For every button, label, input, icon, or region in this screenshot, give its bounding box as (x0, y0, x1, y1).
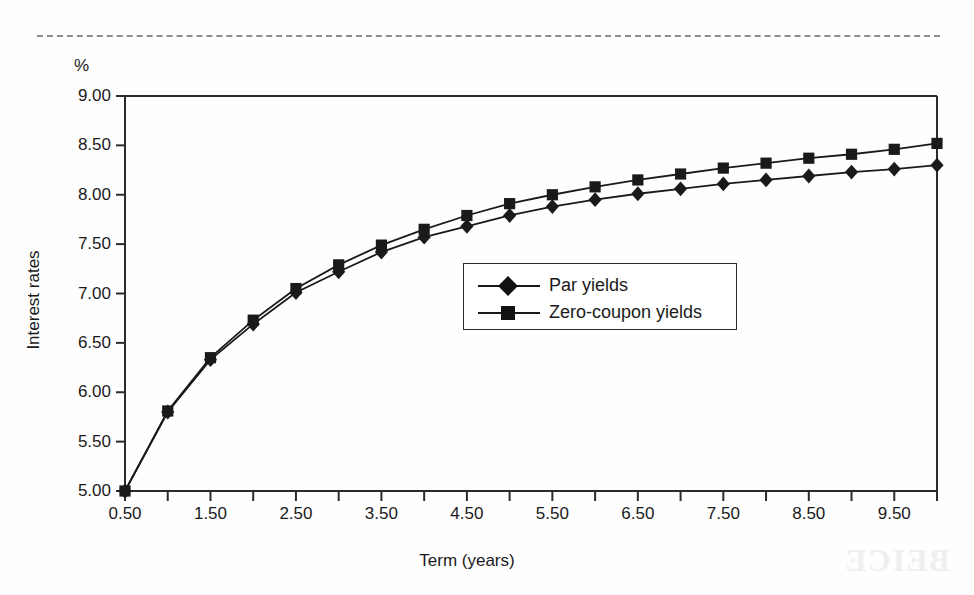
square-data-point (632, 174, 643, 185)
square-data-point (119, 485, 130, 496)
square-data-point (803, 153, 814, 164)
square-data-point (162, 405, 173, 416)
diamond-data-point (930, 158, 943, 173)
square-data-point (718, 162, 729, 173)
square-data-point (675, 168, 686, 179)
diamond-data-point (546, 199, 559, 214)
diamond-data-point (717, 176, 730, 191)
legend-label-par-yields: Par yields (540, 275, 628, 296)
square-data-point (205, 352, 216, 363)
diamond-data-point (631, 186, 644, 201)
diamond-data-point (674, 181, 687, 196)
chart-legend: Par yields Zero-coupon yields (463, 263, 737, 330)
diamond-data-point (460, 219, 473, 234)
square-data-point (290, 283, 301, 294)
yield-curve-chart: % Interest rates Term (years) 5.005.506.… (0, 0, 974, 595)
diamond-data-point (503, 208, 516, 223)
square-data-point (504, 198, 515, 209)
legend-label-zero-coupon-yields: Zero-coupon yields (540, 302, 702, 323)
square-data-point (760, 158, 771, 169)
diamond-data-point (759, 173, 772, 188)
diamond-marker-icon (478, 277, 540, 295)
diamond-data-point (802, 169, 815, 184)
square-data-point (333, 259, 344, 270)
square-data-point (846, 149, 857, 160)
diamond-data-point (888, 162, 901, 177)
square-data-point (248, 315, 259, 326)
legend-item-zero-coupon-yields: Zero-coupon yields (478, 299, 736, 326)
legend-item-par-yields: Par yields (478, 272, 736, 299)
square-marker-icon (478, 304, 540, 322)
diamond-data-point (589, 192, 602, 207)
square-data-point (461, 210, 472, 221)
square-data-point (419, 224, 430, 235)
figure-page: BEICE % Interest rates Term (years) 5.00… (0, 0, 974, 595)
square-data-point (889, 144, 900, 155)
square-data-point (931, 138, 942, 149)
square-data-point (590, 181, 601, 192)
square-data-point (376, 240, 387, 251)
square-data-point (547, 189, 558, 200)
diamond-data-point (845, 165, 858, 180)
